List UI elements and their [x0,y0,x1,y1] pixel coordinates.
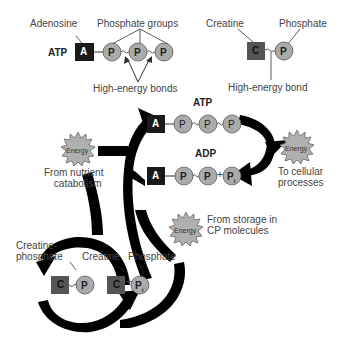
energy-word-nutrient: Energy [66,145,88,156]
label-high-energy-bonds: High-energy bonds [93,83,178,94]
cycle-atp-molecule [147,115,241,133]
label-from-nutrient: From nutrientcatabolism [44,167,103,189]
label-atp-legend: ATP [48,47,67,58]
glyph-adenosine-atp: A [152,118,159,129]
label-adp-cycle: ADP [195,148,216,159]
glyph-pi-free: Pi [135,280,143,296]
label-high-energy-bond: High-energy bond [228,82,308,93]
glyph-p-atp-2: P [204,119,211,130]
glyph-p-atp-3: P [228,119,235,130]
label-phosphate-cycle: Phosphate [128,251,176,262]
glyph-creatine-free: C [113,279,120,290]
label-to-cellular: To cellularprocesses [278,166,324,188]
glyph-phosphate-2: P [134,47,141,58]
legend-creatine-phosphate [238,29,300,80]
energy-word-cellular: Energy [285,143,307,154]
glyph-p-atp-1: P [179,119,186,130]
label-creatine-phosphate: Creatine-phosphate [16,240,63,262]
glyph-phosphate-legend: P [280,46,287,57]
legend-atp-molecule [75,29,173,82]
energy-word-storage: Energy [174,225,196,236]
glyph-p-cp: P [81,280,88,291]
glyph-creatine-legend: C [252,45,259,56]
glyph-adenosine-adp: A [152,170,159,181]
glyph-adenosine: A [80,46,87,57]
label-phosphate-legend: Phosphate [279,18,327,29]
glyph-p-adp-2: P [204,171,211,182]
glyph-p-adp-1: P [180,171,187,182]
label-phosphate-groups: Phosphate groups [97,18,178,29]
label-creatine-cycle: Creatine [82,251,120,262]
glyph-creatine-cp: C [57,279,64,290]
label-adenosine: Adenosine [30,18,77,29]
glyph-plus-creatine: + [126,276,132,287]
glyph-pi-adp: Pi [227,171,235,187]
glyph-phosphate-1: P [108,47,115,58]
label-creatine-legend: Creatine [206,18,244,29]
glyph-plus-adp: + [217,169,223,180]
label-atp-cycle: ATP [193,97,212,108]
glyph-phosphate-3: P [160,47,167,58]
label-from-storage: From storage inCP molecules [207,214,277,236]
